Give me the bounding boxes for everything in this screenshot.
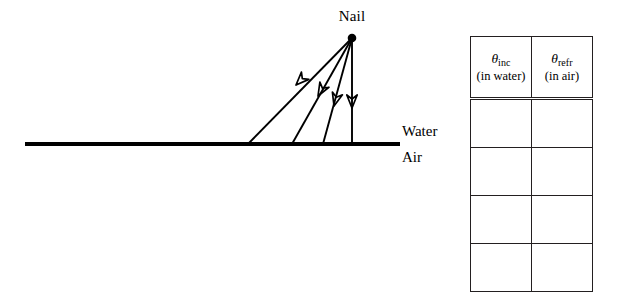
table-header: θinc (in water) θrefr (in air) bbox=[471, 37, 593, 99]
cell-theta-refr[interactable] bbox=[532, 99, 593, 148]
nail-label: Nail bbox=[312, 8, 392, 25]
table-row bbox=[471, 148, 593, 196]
arrowhead-ray-1 bbox=[292, 72, 309, 89]
angle-data-table: θinc (in water) θrefr (in air) bbox=[470, 36, 593, 292]
cell-theta-inc[interactable] bbox=[471, 196, 532, 244]
theta-refr-note: (in air) bbox=[533, 69, 591, 84]
nail-point-dot bbox=[348, 34, 357, 43]
column-header-theta-inc: θinc (in water) bbox=[471, 37, 532, 99]
cell-theta-inc[interactable] bbox=[471, 148, 532, 196]
theta-refr-symbol: θrefr bbox=[533, 51, 591, 69]
theta-glyph-icon: θ bbox=[551, 51, 558, 66]
ray-diagram: Nail Water Air bbox=[0, 0, 450, 299]
theta-inc-symbol: θinc bbox=[472, 51, 530, 69]
water-label: Water bbox=[402, 123, 437, 140]
table-header-row: θinc (in water) θrefr (in air) bbox=[471, 37, 593, 99]
table-row bbox=[471, 244, 593, 292]
theta-inc-note: (in water) bbox=[472, 69, 530, 84]
cell-theta-inc[interactable] bbox=[471, 99, 532, 148]
figure-canvas: Nail Water Air θinc (in water) θrefr (in… bbox=[0, 0, 628, 299]
ray-diagram-svg bbox=[0, 0, 450, 299]
cell-theta-refr[interactable] bbox=[532, 196, 593, 244]
theta-refr-subscript: refr bbox=[558, 57, 573, 68]
cell-theta-refr[interactable] bbox=[532, 148, 593, 196]
cell-theta-inc[interactable] bbox=[471, 244, 532, 292]
column-header-theta-refr: θrefr (in air) bbox=[532, 37, 593, 99]
cell-theta-refr[interactable] bbox=[532, 244, 593, 292]
air-label: Air bbox=[402, 149, 422, 166]
table-row bbox=[471, 196, 593, 244]
theta-inc-subscript: inc bbox=[498, 57, 511, 68]
table-body bbox=[471, 99, 593, 292]
table-row bbox=[471, 99, 593, 148]
